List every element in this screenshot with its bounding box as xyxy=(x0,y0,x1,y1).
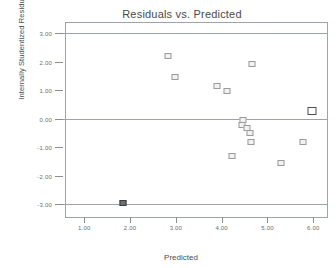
data-point-marker xyxy=(300,139,307,145)
chart-figure: Residuals vs. Predicted Internally Stude… xyxy=(0,0,336,268)
y-axis-label: Internally Studentized Residuals xyxy=(17,0,26,130)
x-tick-label: 6.00 xyxy=(307,225,319,231)
y-tick-label: 2.00 xyxy=(40,60,52,66)
y-tick-label: 1.00 xyxy=(40,88,52,94)
x-tick xyxy=(84,217,85,223)
y-tick-label: -2.00 xyxy=(37,174,52,180)
data-point-marker xyxy=(164,53,171,59)
x-tick xyxy=(267,217,268,223)
x-tick-label: 5.00 xyxy=(261,225,273,231)
x-tick-label: 1.00 xyxy=(78,225,90,231)
x-tick xyxy=(176,217,177,223)
reference-line xyxy=(60,33,327,34)
data-point-marker xyxy=(308,107,317,115)
data-point-marker xyxy=(224,88,231,94)
reference-line xyxy=(60,204,327,205)
y-tick: 3.00 xyxy=(55,33,63,34)
data-point-marker xyxy=(171,74,178,80)
data-point-marker xyxy=(214,83,221,89)
y-tick: 2.00 xyxy=(55,62,63,63)
x-tick-label: 3.00 xyxy=(170,225,182,231)
x-tick-label: 2.00 xyxy=(124,225,136,231)
data-point-marker xyxy=(248,139,255,145)
data-point-marker xyxy=(120,200,127,206)
y-tick: 1.00 xyxy=(55,90,63,91)
data-point-marker xyxy=(247,130,254,136)
x-axis-label: Predicted xyxy=(0,253,336,262)
x-tick-label: 4.00 xyxy=(215,225,227,231)
data-point-marker xyxy=(278,160,285,166)
x-tick xyxy=(130,217,131,223)
data-point-marker xyxy=(248,61,255,67)
y-tick-label: -3.00 xyxy=(37,202,52,208)
y-tick: -2.00 xyxy=(55,176,63,177)
y-tick-label: 0.00 xyxy=(40,117,52,123)
plot-area: 3.002.001.000.00-1.00-2.00-3.00 1.002.00… xyxy=(65,22,328,218)
x-tick xyxy=(222,217,223,223)
y-tick: -3.00 xyxy=(55,204,63,205)
data-point-marker xyxy=(228,153,235,159)
x-tick xyxy=(313,217,314,223)
reference-line xyxy=(60,119,327,120)
y-tick: -1.00 xyxy=(55,147,63,148)
y-tick-label: 3.00 xyxy=(40,31,52,37)
y-tick: 0.00 xyxy=(55,119,63,120)
chart-title: Residuals vs. Predicted xyxy=(0,8,336,20)
y-tick-label: -1.00 xyxy=(37,145,52,151)
